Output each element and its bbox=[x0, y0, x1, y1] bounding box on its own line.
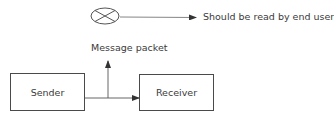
crossed-circle-icon bbox=[91, 8, 119, 24]
arrow-to-end-user bbox=[120, 17, 196, 18]
sender-label: Sender bbox=[31, 87, 65, 98]
sender-box: Sender bbox=[10, 73, 85, 111]
receiver-label: Receiver bbox=[156, 87, 197, 98]
end-user-label: Should be read by end user bbox=[203, 11, 334, 22]
receiver-box: Receiver bbox=[139, 74, 214, 111]
message-packet-label: Message packet bbox=[91, 42, 167, 53]
